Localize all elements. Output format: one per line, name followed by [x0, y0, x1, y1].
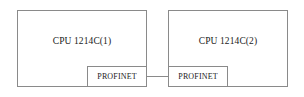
profinet-port-1-label: PROFINET [97, 72, 136, 81]
profinet-port-2[interactable]: PROFINET [168, 66, 228, 87]
device-cpu-1-label: CPU 1214C(1) [18, 36, 146, 47]
network-diagram-canvas: CPU 1214C(1) PROFINET CPU 1214C(2) PROFI… [0, 0, 304, 97]
network-link-line[interactable] [147, 76, 168, 77]
device-cpu-2-label: CPU 1214C(2) [169, 36, 287, 47]
profinet-port-2-label: PROFINET [178, 72, 217, 81]
profinet-port-1[interactable]: PROFINET [87, 66, 147, 87]
